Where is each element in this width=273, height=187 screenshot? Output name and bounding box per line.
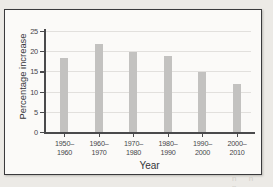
y-tick-label-15: 15 [30, 67, 38, 76]
x-tick-3 [133, 133, 134, 137]
y-tick-label-0: 0 [34, 128, 38, 137]
y-tick-label-25: 25 [30, 27, 38, 36]
x-tick-2 [99, 133, 100, 137]
x-tick-4 [168, 133, 169, 137]
chart-frame: 25 20 15 10 5 0 1950– 1960 1960– 1970 [4, 9, 262, 175]
x-tick-5 [202, 133, 203, 137]
scan-artifact-marks: n n n [232, 174, 273, 187]
bars-layer [44, 31, 251, 132]
y-tick-label-20: 20 [30, 47, 38, 56]
x-axis-line [44, 132, 255, 134]
y-axis-line [44, 29, 46, 134]
y-tick-25 [40, 31, 45, 32]
y-tick-10 [40, 92, 45, 93]
page-background: 25 20 15 10 5 0 1950– 1960 1960– 1970 [0, 0, 273, 187]
x-tick-6 [237, 133, 238, 137]
y-tick-label-10: 10 [30, 88, 38, 97]
x-tick-1 [64, 133, 65, 137]
bar-1960-1970 [95, 44, 103, 132]
y-tick-15 [40, 71, 45, 72]
bar-1950-1960 [60, 58, 68, 132]
x-category-2000-2010-line2: 2010 [217, 148, 257, 157]
bar-1970-1980 [129, 52, 137, 132]
bar-1990-2000 [198, 72, 206, 132]
bar-1980-1990 [164, 56, 172, 132]
y-tick-20 [40, 51, 45, 52]
y-tick-0 [40, 132, 45, 133]
bar-chart: 25 20 15 10 5 0 1950– 1960 1960– 1970 [5, 10, 263, 176]
x-axis-title: Year [44, 160, 255, 171]
bar-2000-2010 [233, 84, 241, 132]
y-tick-label-5: 5 [34, 108, 38, 117]
x-category-2000-2010-line1: 2000– [217, 139, 257, 148]
y-tick-5 [40, 112, 45, 113]
x-category-2000-2010: 2000– 2010 [217, 139, 257, 158]
y-axis-title: Percentage increase [17, 17, 28, 137]
